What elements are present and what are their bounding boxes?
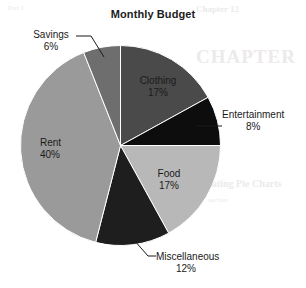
- pie-chart-figure: Monthly Budget Clothing 17% Entertainmen…: [0, 0, 306, 288]
- pie-slices: [20, 45, 220, 245]
- pie-chart-graphic: [0, 0, 306, 288]
